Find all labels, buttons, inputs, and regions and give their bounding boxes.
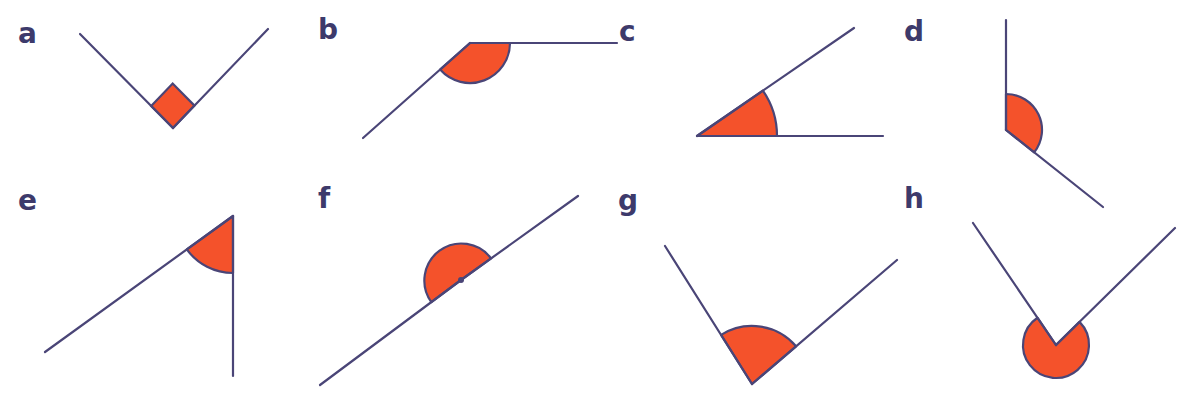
angle-diagram-f	[320, 196, 578, 385]
label-d: d	[904, 18, 924, 46]
angle-ray	[752, 260, 897, 384]
angle-arc-marker-icon	[424, 244, 491, 303]
label-g: g	[618, 187, 638, 215]
angle-arc-marker-icon	[440, 43, 510, 83]
angle-diagrams-canvas	[0, 0, 1191, 398]
angle-ray	[1056, 228, 1175, 345]
angle-diagram-e	[45, 216, 233, 376]
label-h: h	[904, 185, 924, 213]
label-c: c	[619, 18, 636, 46]
angle-diagram-d	[1006, 20, 1103, 207]
label-a: a	[18, 20, 37, 48]
angle-diagram-h	[973, 223, 1175, 378]
label-f: f	[318, 185, 330, 213]
angle-ray	[973, 223, 1056, 345]
angle-worksheet: a b c d e f g h	[0, 0, 1191, 398]
angle-diagram-g	[665, 246, 897, 384]
angle-ray	[1006, 130, 1103, 207]
angle-arc-marker-icon	[1023, 318, 1089, 378]
right-angle-marker-icon	[151, 84, 194, 128]
angle-diagram-b	[363, 43, 617, 138]
label-b: b	[318, 16, 338, 44]
angle-diagram-a	[80, 29, 268, 128]
angle-diagram-c	[697, 28, 883, 136]
angle-ray	[173, 29, 268, 128]
angle-arc-marker-icon	[697, 91, 777, 136]
angle-ray	[363, 43, 470, 138]
label-e: e	[18, 187, 37, 215]
angle-ray	[461, 196, 578, 280]
angle-ray	[45, 216, 233, 352]
angle-ray	[320, 280, 461, 385]
angle-ray	[80, 34, 173, 128]
angle-ray	[665, 246, 752, 384]
